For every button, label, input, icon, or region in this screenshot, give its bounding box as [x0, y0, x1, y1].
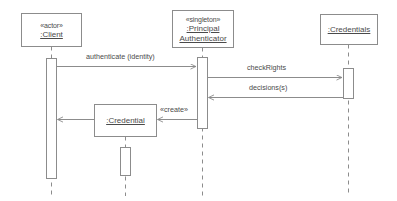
activation-bar-client[interactable] — [47, 59, 57, 179]
activation-bar-authenticator[interactable] — [198, 58, 208, 129]
lifeline-box-client[interactable] — [22, 14, 82, 47]
activation-bar-credentials[interactable] — [344, 69, 354, 99]
lifeline-box-authenticator[interactable] — [173, 11, 234, 48]
sequence-diagram-canvas: «actor» :Client «singleton» :Principal A… — [0, 0, 397, 201]
activation-bar-credential[interactable] — [121, 148, 131, 176]
lifeline-box-credentials[interactable] — [321, 15, 378, 45]
diagram-vector-layer — [0, 0, 397, 201]
object-box-credential[interactable] — [95, 105, 157, 137]
